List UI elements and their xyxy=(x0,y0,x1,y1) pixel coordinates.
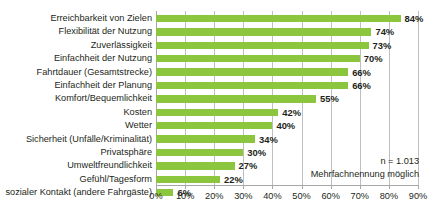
x-tick-label: 10% xyxy=(176,191,194,201)
bar xyxy=(156,15,401,22)
chart-annotation: n = 1.013 Mehrfachnennung möglich xyxy=(311,155,419,181)
bar xyxy=(156,68,348,75)
category-label: sozialer Kontakt (andere Fahrgäste) xyxy=(5,186,152,199)
bar xyxy=(156,28,371,35)
bar xyxy=(156,149,243,156)
bar-row: Kosten42% xyxy=(156,106,418,119)
x-tick xyxy=(302,185,303,189)
bar-row: Zuverlässigkeit73% xyxy=(156,39,418,52)
category-label: Komfort/Bequemlichkeit xyxy=(55,92,152,105)
x-axis-ticks xyxy=(156,185,418,189)
bar-value-label: 27% xyxy=(235,159,258,172)
category-label: Einfachheit der Nutzung xyxy=(54,52,152,65)
x-tick xyxy=(272,185,273,189)
x-tick xyxy=(185,185,186,189)
bar-value-label: 40% xyxy=(272,119,295,132)
bar-value-label: 84% xyxy=(401,12,424,25)
category-label: Kosten xyxy=(123,106,152,119)
bar-row: Einfachheit der Planung66% xyxy=(156,79,418,92)
x-tick xyxy=(389,185,390,189)
category-label: Wetter xyxy=(125,119,152,132)
x-tick-label: 80% xyxy=(380,191,398,201)
bar-row: Flexibilität der Nutzung74% xyxy=(156,25,418,38)
category-label: Umweltfreundlichkeit xyxy=(67,159,152,172)
bar xyxy=(156,135,255,142)
bar-value-label: 34% xyxy=(255,133,278,146)
bar-row: Komfort/Bequemlichkeit55% xyxy=(156,92,418,105)
x-tick-label: 60% xyxy=(321,191,339,201)
bar-value-label: 30% xyxy=(243,146,266,159)
category-label: Gefühl/Tagesform xyxy=(79,173,152,186)
bar-value-label: 74% xyxy=(371,25,394,38)
bar-row: Erreichbarkeit von Zielen84% xyxy=(156,12,418,25)
category-label: Fahrtdauer (Gesamtstrecke) xyxy=(37,66,152,79)
category-label: Erreichbarkeit von Zielen xyxy=(50,12,152,25)
x-tick-label: 0% xyxy=(149,191,162,201)
bar xyxy=(156,109,278,116)
x-tick-label: 70% xyxy=(351,191,369,201)
x-tick xyxy=(331,185,332,189)
category-label: Sicherheit (Unfälle/Kriminalität) xyxy=(26,133,152,146)
bar xyxy=(156,82,348,89)
bar-row: Fahrtdauer (Gesamtstrecke)66% xyxy=(156,66,418,79)
bar xyxy=(156,95,316,102)
multiple-answers-note: Mehrfachnennung möglich xyxy=(311,168,419,181)
x-tick xyxy=(214,185,215,189)
bar-value-label: 70% xyxy=(360,52,383,65)
x-axis-tick-labels: 0%10%20%30%40%50%60%70%80%90% xyxy=(156,191,418,205)
bar-value-label: 66% xyxy=(348,79,371,92)
bar-value-label: 42% xyxy=(278,106,301,119)
x-tick-label: 50% xyxy=(292,191,310,201)
bar-chart: Erreichbarkeit von Zielen84%Flexibilität… xyxy=(0,0,433,212)
bar-value-label: 66% xyxy=(348,66,371,79)
bar-row: Wetter40% xyxy=(156,119,418,132)
bar-value-label: 73% xyxy=(369,39,392,52)
x-tick xyxy=(243,185,244,189)
category-label: Flexibilität der Nutzung xyxy=(59,25,152,38)
bar xyxy=(156,162,235,169)
category-label: Einfachheit der Planung xyxy=(54,79,152,92)
bar xyxy=(156,176,220,183)
x-tick xyxy=(418,185,419,189)
bar xyxy=(156,122,272,129)
category-label: Zuverlässigkeit xyxy=(91,39,152,52)
x-tick-label: 20% xyxy=(205,191,223,201)
bar xyxy=(156,42,369,49)
bar-value-label: 55% xyxy=(316,92,339,105)
sample-size-label: n = 1.013 xyxy=(311,155,419,168)
x-tick-label: 90% xyxy=(409,191,427,201)
bar xyxy=(156,55,360,62)
x-tick-label: 30% xyxy=(234,191,252,201)
category-label: Privatsphäre xyxy=(100,146,152,159)
bar-row: Sicherheit (Unfälle/Kriminalität)34% xyxy=(156,133,418,146)
bar-row: Einfachheit der Nutzung70% xyxy=(156,52,418,65)
x-tick-label: 40% xyxy=(263,191,281,201)
x-tick xyxy=(360,185,361,189)
x-tick xyxy=(156,185,157,189)
